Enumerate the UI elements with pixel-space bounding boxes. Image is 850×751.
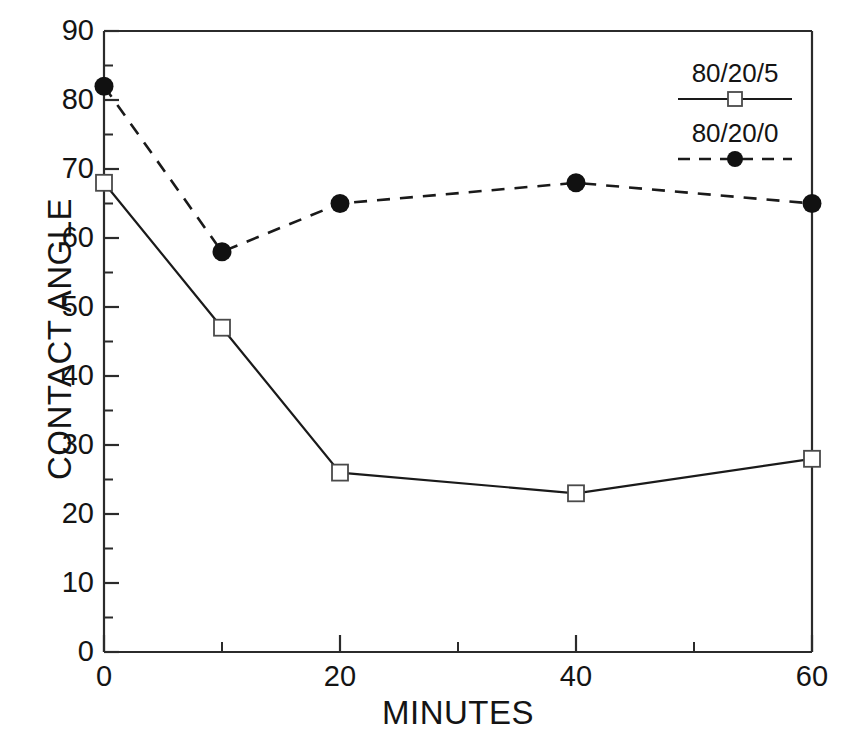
x-tick-label-40: 40 <box>536 662 616 691</box>
y-tick-label-90: 90 <box>24 16 94 45</box>
y-tick-label-10: 10 <box>24 568 94 597</box>
chart-figure: 0102030405060708090 0204060 CONTACT ANGL… <box>0 0 850 751</box>
series-line-80/20/5 <box>104 183 812 494</box>
x-tick-label-20: 20 <box>300 662 380 691</box>
data-point-80/20/0-40 <box>567 173 586 192</box>
y-tick-label-80: 80 <box>24 85 94 114</box>
chart-legend: 80/20/5 80/20/0 <box>660 58 810 178</box>
data-point-80/20/5-20 <box>332 465 348 481</box>
x-axis-minor-ticks <box>222 642 694 652</box>
legend-label-0: 80/20/5 <box>660 58 810 88</box>
legend-label-1: 80/20/0 <box>660 118 810 148</box>
legend-sample-dashed-filled-circle <box>660 148 810 170</box>
data-point-80/20/5-60 <box>804 451 820 467</box>
legend-entry-0: 80/20/5 <box>660 58 810 110</box>
data-point-80/20/0-20 <box>331 194 350 213</box>
data-point-80/20/5-40 <box>568 485 584 501</box>
x-axis-title: MINUTES <box>104 694 812 732</box>
open-square-marker-icon <box>728 92 742 106</box>
data-point-80/20/5-0 <box>96 175 112 191</box>
y-axis-title: CONTACT ANGLE <box>41 179 79 499</box>
data-point-80/20/0-0 <box>95 77 114 96</box>
legend-sample-solid-open-square <box>660 88 810 110</box>
data-point-80/20/0-60 <box>803 194 822 213</box>
x-tick-label-60: 60 <box>772 662 850 691</box>
y-tick-label-20: 20 <box>24 499 94 528</box>
y-axis-minor-ticks <box>104 66 113 618</box>
filled-circle-marker-icon <box>727 151 743 167</box>
x-tick-label-0: 0 <box>64 662 144 691</box>
legend-entry-1: 80/20/0 <box>660 118 810 170</box>
data-point-80/20/0-10 <box>213 242 232 261</box>
data-point-80/20/5-10 <box>214 320 230 336</box>
